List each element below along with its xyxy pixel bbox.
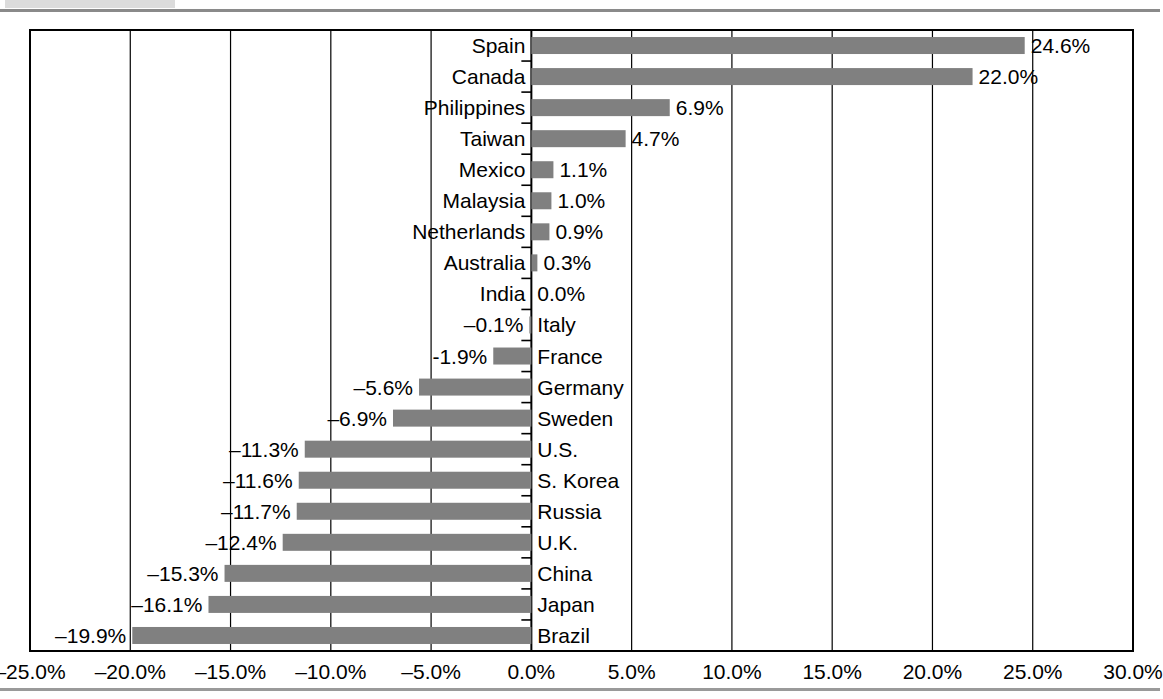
category-label: Spain xyxy=(472,34,526,57)
value-label: –15.3% xyxy=(147,562,218,585)
chart-canvas: SpainCanadaPhilippinesTaiwanMexicoMalays… xyxy=(0,16,1163,686)
x-axis-tick-labels: –25.0%–20.0%–15.0%–10.0%–5.0%0.0%5.0%10.… xyxy=(0,660,1163,683)
x-tick-label: –20.0% xyxy=(95,660,166,683)
bar xyxy=(419,379,531,396)
bar xyxy=(305,441,532,458)
category-label: Canada xyxy=(452,65,526,88)
page-header-band xyxy=(5,0,175,8)
category-label: Russia xyxy=(537,500,602,523)
category-label: S. Korea xyxy=(537,469,619,492)
value-label: –12.4% xyxy=(205,531,276,554)
category-labels-layer: SpainCanadaPhilippinesTaiwanMexicoMalays… xyxy=(412,34,624,647)
value-label: 6.9% xyxy=(676,96,724,119)
value-label: –6.9% xyxy=(327,407,387,430)
value-label: 24.6% xyxy=(1031,34,1091,57)
category-label: Japan xyxy=(537,593,594,616)
gridlines-layer xyxy=(130,30,1032,651)
category-label: France xyxy=(537,345,602,368)
value-label: –16.1% xyxy=(131,593,202,616)
bar xyxy=(297,503,532,520)
plot-border xyxy=(30,30,1133,651)
value-label: -1.9% xyxy=(432,345,487,368)
plot-frame xyxy=(30,30,1133,651)
value-label: 1.0% xyxy=(557,189,605,212)
x-tick-label: 5.0% xyxy=(608,660,656,683)
bottom-divider-rule xyxy=(0,688,1160,691)
bar xyxy=(393,410,531,427)
bar xyxy=(531,99,669,116)
bar xyxy=(531,223,549,240)
category-label: Australia xyxy=(444,251,526,274)
value-label: 0.9% xyxy=(555,220,603,243)
bar xyxy=(529,316,531,333)
value-label: 22.0% xyxy=(979,65,1039,88)
category-label: Italy xyxy=(537,313,576,336)
x-tick-label: 20.0% xyxy=(903,660,963,683)
category-label: U.K. xyxy=(537,531,578,554)
value-label: –5.6% xyxy=(354,376,414,399)
x-tick-label: 15.0% xyxy=(802,660,862,683)
category-label: Germany xyxy=(537,376,624,399)
x-tick-label: 10.0% xyxy=(702,660,762,683)
bar xyxy=(208,596,531,613)
value-label: –0.1% xyxy=(464,313,524,336)
x-tick-label: 0.0% xyxy=(507,660,555,683)
category-label: Philippines xyxy=(424,96,526,119)
category-label: India xyxy=(480,282,526,305)
bar xyxy=(531,254,537,271)
value-label: 0.0% xyxy=(537,282,585,305)
bar xyxy=(531,37,1024,54)
x-tick-label: –10.0% xyxy=(295,660,366,683)
x-tick-label: –15.0% xyxy=(195,660,266,683)
value-label: 0.3% xyxy=(543,251,591,274)
bar xyxy=(493,348,531,365)
category-label: U.S. xyxy=(537,438,578,461)
bar-chart: SpainCanadaPhilippinesTaiwanMexicoMalays… xyxy=(0,16,1163,686)
x-tick-label: 30.0% xyxy=(1103,660,1163,683)
category-label: Taiwan xyxy=(460,127,525,150)
top-divider-rule xyxy=(0,9,1160,12)
bar xyxy=(531,161,553,178)
value-label: –11.3% xyxy=(229,438,299,461)
bar xyxy=(132,627,531,644)
category-label: Netherlands xyxy=(412,220,525,243)
category-label: Brazil xyxy=(537,624,590,647)
category-label: Sweden xyxy=(537,407,613,430)
x-tick-label: –5.0% xyxy=(401,660,461,683)
category-label: Mexico xyxy=(459,158,526,181)
category-label: Malaysia xyxy=(442,189,525,212)
bar xyxy=(225,565,532,582)
x-tick-label: –25.0% xyxy=(0,660,66,683)
value-label: 1.1% xyxy=(559,158,607,181)
value-label: 4.7% xyxy=(632,127,680,150)
bar xyxy=(531,130,625,147)
category-label: China xyxy=(537,562,592,585)
value-labels-layer: 24.6%22.0%6.9%4.7%1.1%1.0%0.9%0.3%0.0%–0… xyxy=(55,34,1090,647)
bar xyxy=(531,192,551,209)
page-root: SpainCanadaPhilippinesTaiwanMexicoMalays… xyxy=(0,0,1163,699)
value-label: –11.7% xyxy=(221,500,291,523)
x-tick-label: 25.0% xyxy=(1003,660,1063,683)
value-label: –19.9% xyxy=(55,624,126,647)
value-label: –11.6% xyxy=(223,469,293,492)
bar xyxy=(299,472,532,489)
bar xyxy=(283,534,532,551)
bar xyxy=(531,68,972,85)
